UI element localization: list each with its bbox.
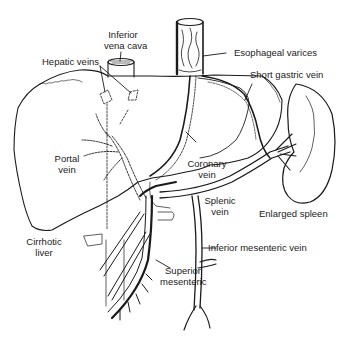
enlarged-spleen: [283, 84, 335, 203]
label-line: Inferior: [104, 29, 142, 40]
ivc-top: [108, 59, 134, 66]
label-line: vein: [202, 206, 238, 217]
label-line: Coronary: [182, 158, 232, 169]
label-line: vein: [50, 164, 84, 175]
label-superior-mesenteric: Superior mesenteric: [160, 265, 206, 287]
label-splenic-vein: Splenic vein: [202, 195, 238, 217]
esophagus: [177, 19, 203, 75]
label-cirrhotic-liver: Cirrhotic liver: [24, 236, 64, 258]
label-line: Superior: [160, 265, 206, 276]
label-line: liver: [24, 247, 64, 258]
label-line: Cirrhotic: [24, 236, 64, 247]
label-line: mesenteric: [160, 276, 206, 287]
label-line: vein: [182, 169, 232, 180]
label-hepatic-veins: Hepatic veins: [42, 56, 99, 67]
portal-hypertension-diagram: Inferior vena cava Hepatic veins Esophag…: [0, 0, 339, 345]
liver-outline-texture: [40, 76, 280, 102]
hepatic-veins-stubs: [100, 90, 138, 230]
background-structures: [84, 182, 174, 306]
short-gastric-vein: [202, 76, 270, 158]
liver-outline: [14, 70, 282, 231]
label-inferior-mesenteric-vein: Inferior mesenteric vein: [208, 242, 307, 253]
label-inferior-vena-cava: Inferior vena cava: [104, 29, 142, 51]
label-line: vena cava: [104, 40, 142, 51]
stomach-region: [198, 78, 249, 158]
label-esophageal-varices: Esophageal varices: [234, 47, 317, 58]
label-portal-vein: Portal vein: [50, 153, 84, 175]
mesenteric-branchlets: [120, 274, 152, 320]
label-short-gastric-vein: Short gastric vein: [250, 69, 323, 80]
portal-vein-trunk: [140, 182, 176, 196]
label-coronary-vein: Coronary vein: [182, 158, 232, 180]
label-enlarged-spleen: Enlarged spleen: [259, 208, 328, 219]
portal-vein-branches: [82, 114, 146, 200]
label-line: Portal: [50, 153, 84, 164]
inferior-mesenteric-vein: [192, 196, 196, 310]
label-line: Splenic: [202, 195, 238, 206]
